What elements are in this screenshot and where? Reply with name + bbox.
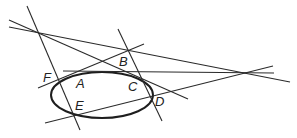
- line-top-steep: [9, 20, 188, 99]
- ellipse: [51, 72, 153, 118]
- point-label-a: A: [75, 76, 85, 91]
- point-label-f: F: [43, 70, 52, 85]
- line-fe: [27, 6, 80, 130]
- point-label-e: E: [75, 98, 84, 113]
- point-label-b: B: [119, 54, 128, 69]
- point-label-c: C: [128, 79, 138, 94]
- line-top-shallow: [9, 27, 290, 82]
- geometry-diagram: F A B C D E: [0, 0, 297, 138]
- point-label-d: D: [155, 94, 164, 109]
- diagram-canvas: F A B C D E: [0, 0, 297, 138]
